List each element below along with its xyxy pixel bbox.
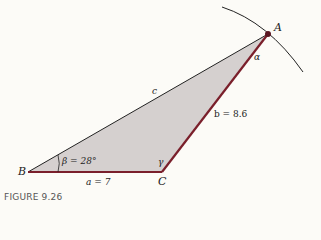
side-c-label: c [152,87,157,96]
side-b-label: b = 8.6 [214,110,247,119]
vertex-c-label: C [158,176,166,187]
vertex-a-dot [265,31,271,37]
vertex-a-label: A [274,22,282,33]
angle-gamma-label: γ [158,158,163,167]
vertex-b-label: B [18,166,26,177]
angle-alpha-label: α [254,53,260,62]
angle-beta-label: β = 28° [62,157,96,166]
side-a-label: a = 7 [86,178,110,187]
figure-caption: FIGURE 9.26 [4,192,62,202]
